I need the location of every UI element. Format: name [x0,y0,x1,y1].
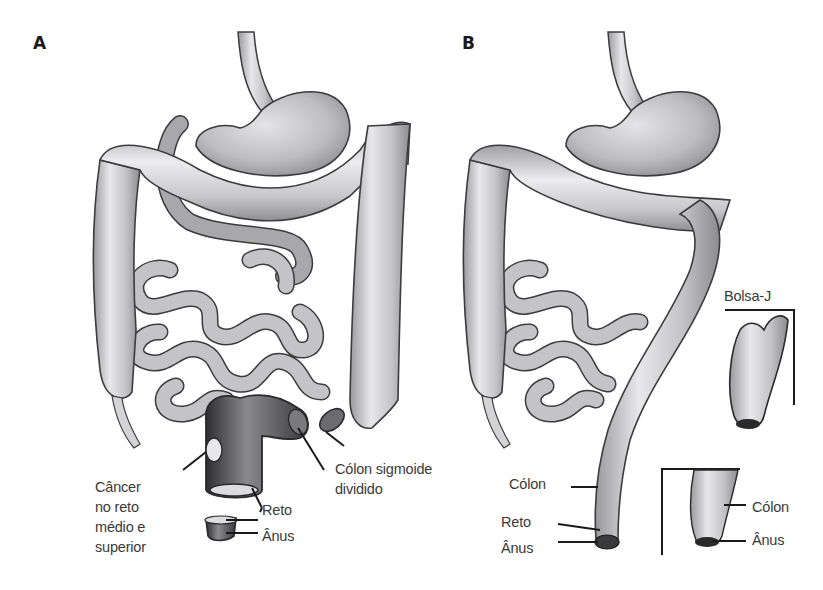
stomach [196,92,350,176]
label-inset-anus: Ânus [752,530,784,550]
label-j-pouch: Bolsa-J [724,286,771,306]
panel-b-letter: B [462,33,475,53]
j-pouch-inset [725,310,794,429]
small-intestine [136,257,322,414]
stomach-b [566,92,720,176]
label-anus-a: Ânus [262,526,294,546]
label-reto-a: Reto [262,500,292,520]
label-inset-colon: Cólon [752,497,789,517]
ascending-colon [93,160,140,398]
appendix [112,396,140,448]
label-anus-b: Ânus [501,538,533,558]
colon-anal-anastomosis-inset [662,469,746,555]
label-divided-sigmoid-colon: Cólon sigmoide dividido [335,459,432,499]
small-intestine-b [506,268,640,414]
panel-b-leader-lines [558,487,600,542]
label-colon-b: Cólon [509,474,546,494]
label-reto-b: Reto [501,512,531,532]
panel-a-letter: A [33,33,46,53]
sigmoid-cut-end [315,404,348,436]
label-cancer-mid-upper-rectum: Câncer no reto médio e superior [95,477,146,557]
esophagus [238,32,276,112]
tumor [206,438,222,462]
